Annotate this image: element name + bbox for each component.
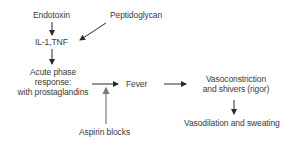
acute-phase-line2: response: — [14, 77, 92, 87]
node-endotoxin: Endotoxin — [33, 10, 70, 20]
arrow-peptidoglycan-to-il1 — [80, 23, 106, 40]
node-vasodilation: Vasodilation and sweating — [184, 118, 280, 128]
node-vasoconstriction: Vasoconstriction and shivers (rigor) — [196, 74, 276, 94]
node-acute-phase: Acute phase response: with prostaglandin… — [14, 67, 92, 97]
acute-phase-line1: Acute phase — [14, 67, 92, 77]
vasoconstriction-line2: and shivers (rigor) — [196, 84, 276, 94]
node-il1-tnf: IL-1,TNF — [35, 37, 68, 47]
node-aspirin-blocks: Aspirin blocks — [79, 127, 130, 137]
acute-phase-line3: with prostaglandins — [14, 87, 92, 97]
node-fever: Fever — [126, 79, 147, 89]
node-peptidoglycan: Peptidoglycan — [110, 10, 162, 20]
vasoconstriction-line1: Vasoconstriction — [196, 74, 276, 84]
